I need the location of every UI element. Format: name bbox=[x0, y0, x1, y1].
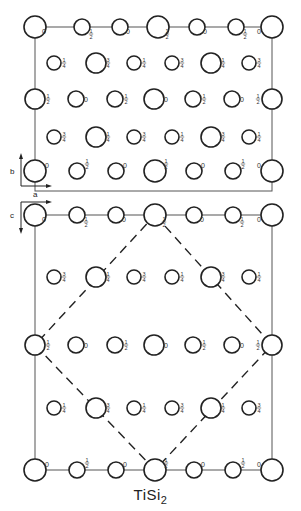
height-label-fraction: 34 bbox=[180, 57, 184, 69]
height-label-fraction: 14 bbox=[180, 131, 184, 143]
height-label-zero: 0 bbox=[201, 461, 205, 468]
height-label-fraction: 12 bbox=[240, 216, 244, 228]
ti-atom-large-icon bbox=[261, 459, 283, 481]
ti-atom-large-icon bbox=[144, 459, 166, 481]
ti-atom-large-icon bbox=[144, 160, 166, 182]
ti-atom-large-icon bbox=[144, 89, 164, 109]
height-label-zero: 0 bbox=[84, 342, 88, 349]
svg-text:2: 2 bbox=[162, 222, 165, 228]
svg-text:2: 2 bbox=[256, 99, 259, 105]
svg-text:4: 4 bbox=[142, 137, 145, 143]
si-atom-small-icon bbox=[185, 337, 201, 353]
height-label-zero: 0 bbox=[123, 461, 127, 468]
svg-text:2: 2 bbox=[241, 164, 244, 170]
height-label-fraction: 12 bbox=[243, 28, 247, 40]
height-label-zero: 0 bbox=[123, 162, 127, 169]
svg-text:2: 2 bbox=[46, 99, 49, 105]
height-label-fraction: 12 bbox=[241, 457, 245, 469]
height-label-zero: 0 bbox=[240, 96, 244, 103]
ti-atom-large-icon bbox=[261, 160, 283, 182]
svg-text:4: 4 bbox=[106, 137, 109, 143]
height-label-zero: 0 bbox=[122, 216, 126, 223]
svg-text:2: 2 bbox=[202, 99, 205, 105]
height-label-fraction: 12 bbox=[164, 158, 168, 170]
si-atom-small-icon bbox=[242, 270, 256, 284]
svg-text:4: 4 bbox=[221, 63, 224, 69]
svg-text:2: 2 bbox=[165, 34, 168, 40]
height-label-zero: 0 bbox=[45, 461, 49, 468]
height-label-fraction: 12 bbox=[124, 339, 128, 351]
height-label-fraction: 14 bbox=[221, 57, 225, 69]
height-label-fraction: 14 bbox=[62, 402, 66, 414]
height-label-fraction: 34 bbox=[142, 271, 146, 283]
formula-subscript: 2 bbox=[161, 494, 168, 506]
svg-text:4: 4 bbox=[62, 63, 65, 69]
svg-text:2: 2 bbox=[84, 222, 87, 228]
svg-text:2: 2 bbox=[243, 34, 246, 40]
height-label-zero: 0 bbox=[200, 216, 204, 223]
height-label-fraction: 14 bbox=[106, 271, 110, 283]
height-label-fraction: 14 bbox=[257, 131, 261, 143]
height-label-fraction: 12 bbox=[46, 339, 50, 351]
svg-text:4: 4 bbox=[142, 408, 145, 414]
si-atom-small-icon bbox=[242, 130, 256, 144]
height-label-zero: 0 bbox=[126, 28, 130, 35]
si-atom-small-icon bbox=[127, 270, 141, 284]
top-panel-ab-projection: 0120120120143414341434120120120123414341… bbox=[24, 16, 283, 191]
si-atom-small-icon bbox=[127, 401, 141, 415]
si-atom-small-icon bbox=[186, 462, 202, 478]
height-label-fraction: 12 bbox=[85, 457, 89, 469]
svg-text:4: 4 bbox=[221, 408, 224, 414]
height-label-fraction: 12 bbox=[46, 93, 50, 105]
a-axis-arrow-icon bbox=[46, 184, 52, 188]
height-label-fraction: 12 bbox=[124, 93, 128, 105]
si-atom-small-icon bbox=[165, 130, 179, 144]
svg-text:4: 4 bbox=[106, 408, 109, 414]
svg-text:4: 4 bbox=[62, 277, 65, 283]
height-label-fraction: 34 bbox=[62, 131, 66, 143]
si-atom-small-icon bbox=[242, 401, 256, 415]
ti-atom-large-icon bbox=[201, 127, 221, 147]
svg-text:2: 2 bbox=[241, 463, 244, 469]
si-atom-small-icon bbox=[69, 207, 85, 223]
svg-text:2: 2 bbox=[46, 345, 49, 351]
height-label-zero: 0 bbox=[257, 28, 261, 35]
svg-text:4: 4 bbox=[257, 63, 260, 69]
ti-atom-large-icon bbox=[24, 459, 46, 481]
height-label-zero: 0 bbox=[201, 162, 205, 169]
height-label-fraction: 14 bbox=[142, 57, 146, 69]
svg-text:2: 2 bbox=[240, 222, 243, 228]
si-atom-small-icon bbox=[68, 337, 84, 353]
svg-text:4: 4 bbox=[62, 408, 65, 414]
si-atom-small-icon bbox=[127, 56, 141, 70]
svg-text:2: 2 bbox=[85, 463, 88, 469]
svg-text:4: 4 bbox=[180, 63, 183, 69]
svg-text:4: 4 bbox=[106, 277, 109, 283]
height-label-zero: 0 bbox=[257, 461, 261, 468]
height-label-fraction: 34 bbox=[257, 402, 261, 414]
ti-atom-large-icon bbox=[25, 89, 45, 109]
svg-text:4: 4 bbox=[257, 408, 260, 414]
si-atom-small-icon bbox=[225, 462, 241, 478]
height-label-fraction: 34 bbox=[257, 57, 261, 69]
si-atom-small-icon bbox=[47, 401, 61, 415]
si-atom-small-icon bbox=[228, 19, 244, 35]
a-axis-arrow-icon-bottom bbox=[46, 200, 52, 204]
a-axis-label: a bbox=[33, 190, 38, 199]
height-label-fraction: 12 bbox=[89, 28, 93, 40]
si-atom-small-icon bbox=[165, 270, 179, 284]
height-label-fraction: 34 bbox=[142, 131, 146, 143]
svg-text:4: 4 bbox=[142, 63, 145, 69]
svg-text:2: 2 bbox=[202, 345, 205, 351]
si-atom-small-icon bbox=[47, 270, 61, 284]
svg-text:4: 4 bbox=[142, 277, 145, 283]
height-label-fraction: 14 bbox=[221, 402, 225, 414]
height-label-fraction: 14 bbox=[180, 271, 184, 283]
ti-atom-large-icon bbox=[262, 89, 282, 109]
b-axis-arrow-icon bbox=[19, 153, 23, 159]
si-atom-small-icon bbox=[47, 130, 61, 144]
height-label-zero: 0 bbox=[257, 216, 261, 223]
height-label-fraction: 14 bbox=[142, 402, 146, 414]
height-label-fraction: 12 bbox=[85, 158, 89, 170]
height-label-fraction: 34 bbox=[180, 402, 184, 414]
